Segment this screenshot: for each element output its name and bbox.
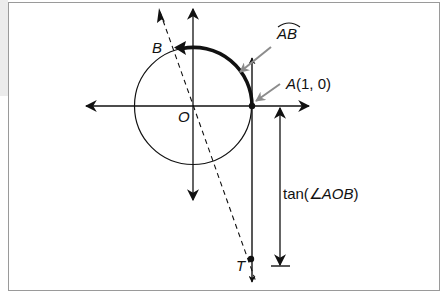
label-point-a-letter: A — [285, 75, 296, 92]
arc-pointer-arrow — [240, 47, 271, 72]
label-point-a: A(1, 0) — [285, 75, 331, 92]
label-b: B — [152, 39, 162, 56]
label-tan-prefix: tan(∠ — [283, 185, 322, 202]
label-arc-ab: AB — [276, 25, 297, 42]
unit-circle-diagram: B O AB A(1, 0) T tan(∠AOB) — [0, 0, 443, 299]
label-tan-angle: AOB — [321, 185, 354, 202]
label-point-a-coords: (1, 0) — [296, 75, 331, 92]
point-a-dot — [249, 103, 255, 109]
point-a-pointer-arrow — [256, 84, 280, 101]
label-tan-measure: tan(∠AOB) — [283, 185, 359, 202]
label-tan-suffix: ) — [354, 185, 359, 202]
point-t-dot — [248, 256, 254, 262]
label-o: O — [178, 108, 190, 125]
label-t: T — [236, 257, 247, 274]
page: B O AB A(1, 0) T tan(∠AOB) — [0, 0, 443, 299]
